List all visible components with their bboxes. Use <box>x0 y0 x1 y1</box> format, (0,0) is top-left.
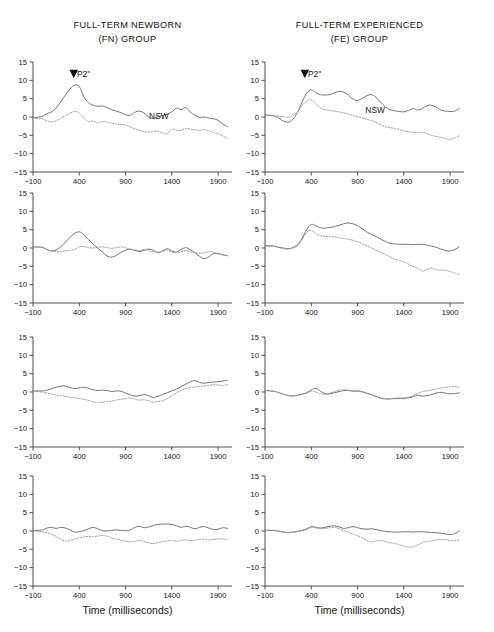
waveform-trace-dotted <box>33 531 227 543</box>
xaxis-label-right: Time (milliseconds) <box>252 604 467 616</box>
waveform-trace-solid <box>33 85 227 127</box>
y-tick-label: −5 <box>18 406 27 415</box>
y-tick-label: 5 <box>23 225 27 234</box>
x-tick-label: 900 <box>119 308 132 317</box>
y-tick-label: −5 <box>18 131 27 140</box>
nsw-annotation-label: NSW <box>365 105 385 115</box>
p2-annotation-label: "P2" <box>305 69 321 79</box>
y-tick-label: −10 <box>246 424 259 433</box>
waveform-trace-dotted <box>33 385 227 403</box>
y-tick-label: −15 <box>246 582 259 591</box>
x-tick-label: 400 <box>73 452 86 461</box>
x-tick-label: 400 <box>305 591 318 600</box>
waveform-panel-fe-row2: 151050−5−10−15−10040090014001900 <box>235 185 478 325</box>
y-tick-label: −10 <box>14 280 27 289</box>
x-tick-label: 900 <box>119 452 132 461</box>
y-tick-label: 5 <box>255 94 259 103</box>
x-tick-label: 1400 <box>395 591 412 600</box>
xaxis-label-left: Time (milliseconds) <box>20 604 235 616</box>
waveform-panel-fe-row1: 151050−5−10−15−10040090014001900"P2"NSW <box>235 54 478 194</box>
x-tick-label: 1900 <box>210 452 227 461</box>
x-tick-label: 1400 <box>163 591 180 600</box>
waveform-trace-solid <box>265 223 459 251</box>
y-tick-label: −5 <box>18 545 27 554</box>
y-tick-label: −5 <box>250 262 259 271</box>
column-title-right: FULL-TERM EXPERIENCED (FE) GROUP <box>252 18 467 46</box>
y-tick-label: −15 <box>246 168 259 177</box>
y-tick-label: 10 <box>251 76 259 85</box>
y-tick-label: 15 <box>251 472 259 481</box>
waveform-trace-dotted <box>265 527 459 547</box>
y-tick-label: −15 <box>246 443 259 452</box>
x-tick-label: 1400 <box>163 452 180 461</box>
y-tick-label: −15 <box>14 582 27 591</box>
y-tick-label: 10 <box>251 490 259 499</box>
y-tick-label: 0 <box>255 244 259 253</box>
x-tick-label: 1900 <box>210 308 227 317</box>
y-tick-label: −10 <box>246 149 259 158</box>
y-tick-label: 5 <box>255 369 259 378</box>
y-tick-label: −15 <box>14 443 27 452</box>
y-tick-label: 10 <box>19 207 27 216</box>
y-tick-label: 10 <box>251 207 259 216</box>
x-tick-label: −100 <box>24 308 41 317</box>
y-tick-label: −5 <box>250 406 259 415</box>
y-tick-label: 5 <box>255 225 259 234</box>
y-tick-label: 0 <box>23 113 27 122</box>
y-tick-label: 5 <box>23 369 27 378</box>
y-tick-label: −15 <box>246 299 259 308</box>
x-tick-label: 400 <box>73 591 86 600</box>
x-tick-label: 1400 <box>395 308 412 317</box>
x-tick-label: 400 <box>73 308 86 317</box>
column-title-left-line2: (FN) GROUP <box>20 32 235 46</box>
y-tick-label: 15 <box>251 189 259 198</box>
x-tick-label: 1400 <box>395 452 412 461</box>
y-tick-label: 15 <box>19 58 27 67</box>
y-tick-label: 10 <box>19 490 27 499</box>
waveform-panel-fn-row3: 151050−5−10−15−10040090014001900 <box>3 329 246 469</box>
y-tick-label: 15 <box>251 58 259 67</box>
waveform-panel-fe-row4: 151050−5−10−15−10040090014001900 <box>235 468 478 608</box>
nsw-annotation-label: NSW <box>149 111 169 121</box>
y-tick-label: −15 <box>14 168 27 177</box>
y-tick-label: 15 <box>251 333 259 342</box>
x-tick-label: 900 <box>351 452 364 461</box>
waveform-trace-solid <box>33 232 227 259</box>
waveform-trace-solid <box>33 380 227 397</box>
x-tick-label: −100 <box>256 452 273 461</box>
x-tick-label: 900 <box>119 591 132 600</box>
x-tick-label: −100 <box>256 591 273 600</box>
waveform-trace-dotted <box>265 100 459 140</box>
y-tick-label: −5 <box>250 545 259 554</box>
x-tick-label: −100 <box>256 308 273 317</box>
waveform-trace-solid <box>33 524 227 532</box>
y-tick-label: 0 <box>255 388 259 397</box>
x-tick-label: 900 <box>351 308 364 317</box>
waveform-panel-fe-row3: 151050−5−10−15−10040090014001900 <box>235 329 478 469</box>
y-tick-label: 5 <box>23 508 27 517</box>
column-title-left-line1: FULL-TERM NEWBORN <box>73 20 181 30</box>
column-title-right-line2: (FE) GROUP <box>252 32 467 46</box>
x-tick-label: 1900 <box>442 452 459 461</box>
y-tick-label: 15 <box>19 189 27 198</box>
waveform-panel-fn-row2: 151050−5−10−15−10040090014001900 <box>3 185 246 325</box>
y-tick-label: 15 <box>19 472 27 481</box>
y-tick-label: −15 <box>14 299 27 308</box>
y-tick-label: 0 <box>23 244 27 253</box>
column-title-left: FULL-TERM NEWBORN (FN) GROUP <box>20 18 235 46</box>
waveform-trace-solid <box>265 388 459 399</box>
x-tick-label: 1900 <box>442 308 459 317</box>
y-tick-label: 10 <box>19 351 27 360</box>
x-tick-label: −100 <box>24 591 41 600</box>
y-tick-label: 10 <box>19 76 27 85</box>
y-tick-label: 0 <box>255 527 259 536</box>
y-tick-label: −10 <box>14 149 27 158</box>
waveform-trace-dotted <box>33 246 227 255</box>
y-tick-label: −10 <box>246 563 259 572</box>
y-tick-label: 0 <box>255 113 259 122</box>
y-tick-label: −10 <box>14 424 27 433</box>
waveform-trace-solid <box>265 526 459 535</box>
x-tick-label: 400 <box>305 452 318 461</box>
x-tick-label: 1900 <box>442 591 459 600</box>
waveform-panel-fn-row4: 151050−5−10−15−10040090014001900 <box>3 468 246 608</box>
